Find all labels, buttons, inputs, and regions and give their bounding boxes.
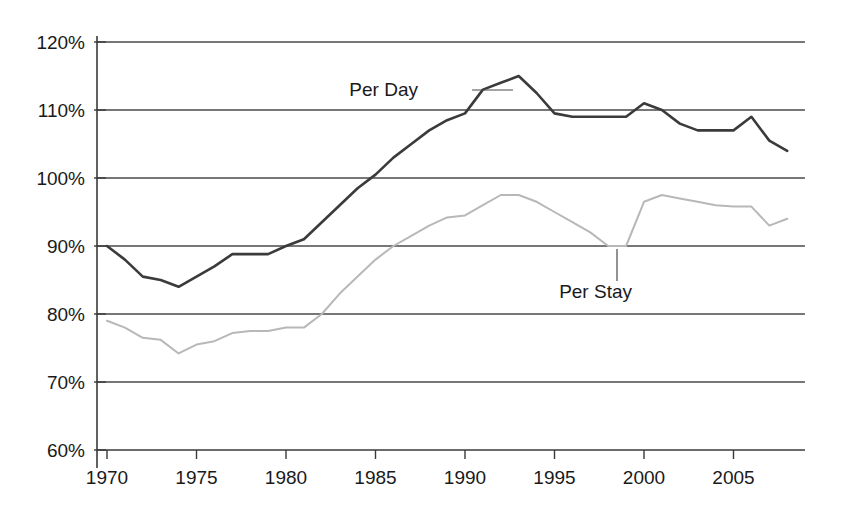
y-axis-tick-label: 80% (47, 304, 85, 325)
x-axis-tick-label: 1970 (86, 467, 128, 488)
y-axis-ticks (94, 42, 106, 450)
y-axis-tick-label: 100% (36, 168, 85, 189)
y-axis-tick-label: 110% (38, 100, 85, 121)
y-axis-tick-label: 90% (47, 236, 85, 257)
x-axis-tick-label: 1980 (265, 467, 307, 488)
series-line-per-day (107, 76, 787, 287)
line-chart: 120%110%100%90%80%70%60% 197019751980198… (0, 0, 842, 532)
series-line-per-stay (107, 195, 787, 353)
y-axis-tick-label: 120% (36, 32, 85, 53)
x-axis-tick-label: 2005 (712, 467, 754, 488)
y-axis-tick-label: 70% (47, 372, 85, 393)
x-axis-tick-label: 2000 (623, 467, 665, 488)
gridlines (97, 42, 805, 382)
y-axis-labels: 120%110%100%90%80%70%60% (36, 32, 85, 461)
series-label-per-stay: Per Stay (559, 281, 632, 302)
x-axis-tick-label: 1975 (175, 467, 217, 488)
x-axis-ticks (107, 450, 734, 459)
x-axis-tick-label: 1995 (533, 467, 575, 488)
y-axis-tick-label: 60% (47, 440, 85, 461)
chart-container: 120%110%100%90%80%70%60% 197019751980198… (0, 0, 842, 532)
series-label-per-day: Per Day (349, 79, 418, 100)
x-axis-tick-label: 1990 (444, 467, 486, 488)
x-axis-labels: 19701975198019851990199520002005 (86, 467, 755, 488)
series-annotations: Per DayPer Stay (349, 79, 632, 302)
x-axis-tick-label: 1985 (354, 467, 396, 488)
